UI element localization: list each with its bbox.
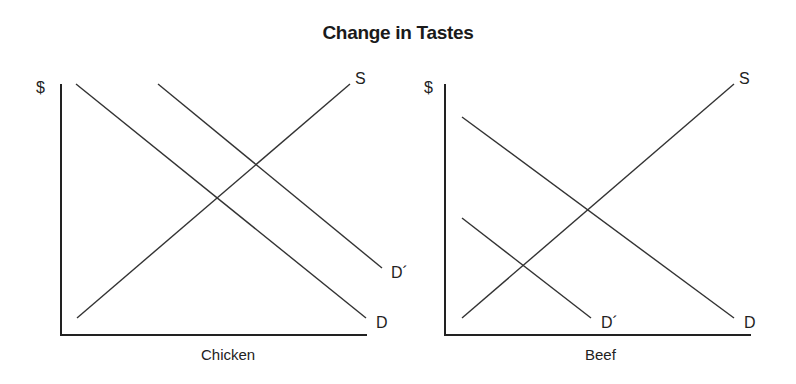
chicken-y-label: $ [36, 79, 45, 96]
supply-demand-diagrams: $ S D D´ Chicken $ S D D´ Beef [0, 0, 796, 384]
beef-demand-curve [462, 117, 734, 318]
chicken-supply-label: S [355, 70, 366, 87]
beef-supply-curve [462, 84, 734, 318]
beef-panel: $ S D D´ Beef [424, 70, 756, 363]
beef-y-label: $ [424, 79, 433, 96]
chicken-panel: $ S D D´ Chicken [36, 70, 408, 363]
chicken-x-label: Chicken [201, 346, 255, 363]
beef-demand-label: D [744, 314, 756, 331]
beef-demand-shifted-label: D´ [601, 314, 618, 331]
chicken-demand-shifted-label: D´ [391, 264, 408, 281]
chicken-supply-curve [77, 84, 350, 318]
beef-demand-shifted-curve [462, 218, 591, 318]
chicken-demand-curve [76, 84, 366, 318]
beef-supply-label: S [739, 70, 750, 87]
chicken-demand-label: D [376, 314, 388, 331]
beef-x-label: Beef [585, 346, 617, 363]
